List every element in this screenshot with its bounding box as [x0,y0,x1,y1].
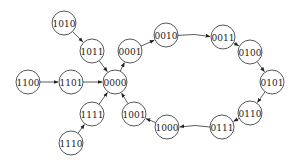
edge-1010-to-1011 [72,31,82,41]
node-0000: 0000 [103,70,127,94]
edge-0011-to-0100 [233,43,238,46]
edge-0110-to-0111 [234,118,240,121]
node-1001: 1001 [122,102,146,126]
node-label: 1100 [17,78,40,88]
node-label: 0101 [261,78,284,88]
node-label: 1001 [123,110,146,120]
node-1011: 1011 [80,39,104,63]
edge-0000-to-0001 [120,63,124,71]
node-0010: 0010 [154,23,178,47]
node-label: 1110 [60,139,83,149]
node-0110: 0110 [238,101,262,125]
node-label: 0001 [119,47,142,57]
edge-0010-to-0011 [178,34,210,36]
edge-1000-to-1001 [146,119,156,123]
nodes-layer: 1010101100010010001101000101011001111000… [16,11,284,155]
node-label: 0100 [239,48,262,58]
edge-1110-to-1111 [78,125,84,134]
node-0001: 0001 [118,39,142,63]
edge-1111-to-0000 [99,93,107,105]
node-label: 1011 [81,47,104,57]
node-label: 0010 [155,31,178,41]
state-graph: 1010101100010010001101000101011001111000… [0,0,294,166]
node-0111: 0111 [210,115,234,139]
edge-0101-to-0110 [258,92,266,103]
edge-0100-to-0101 [257,62,264,72]
node-1100: 1100 [16,70,40,94]
node-1111: 1111 [80,102,104,126]
node-label: 0110 [239,109,262,119]
node-1101: 1101 [59,70,83,94]
edge-0111-to-1000 [180,126,210,128]
node-1010: 1010 [52,11,76,35]
node-label: 1000 [156,123,179,133]
edge-1011-to-0000 [99,61,107,72]
node-label: 0011 [212,33,235,43]
node-label: 0111 [211,123,234,133]
node-0011: 0011 [211,25,235,49]
edge-1001-to-0000 [122,93,128,104]
node-label: 1111 [81,110,104,120]
node-label: 1101 [60,78,83,88]
edge-0001-to-0010 [141,40,154,46]
node-0101: 0101 [260,70,284,94]
node-label: 0000 [104,78,127,88]
node-label: 1010 [53,19,76,29]
node-1000: 1000 [155,115,179,139]
node-1110: 1110 [59,131,83,155]
node-0100: 0100 [238,40,262,64]
